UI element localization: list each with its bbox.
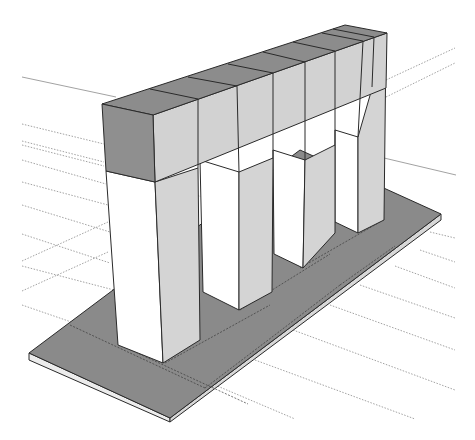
post-4-front xyxy=(335,130,358,233)
model-canvas xyxy=(0,0,475,440)
post-2-side xyxy=(239,158,273,310)
post-2-front xyxy=(200,160,239,310)
guide-lines-left xyxy=(22,77,116,325)
beam-front-end xyxy=(102,104,155,182)
post-2[interactable] xyxy=(200,158,273,310)
3d-viewport[interactable] xyxy=(0,0,475,440)
post-1-side xyxy=(155,168,200,363)
post-3-front xyxy=(273,150,305,268)
post-1[interactable] xyxy=(106,168,200,363)
